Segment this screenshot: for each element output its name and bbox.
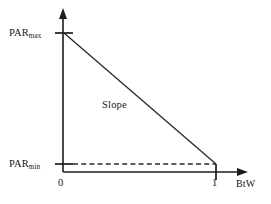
x-axis-title: BtW xyxy=(236,179,256,189)
par-min-base-text: PAR xyxy=(9,158,29,169)
x-axis-tick-label-one: 1 xyxy=(212,178,217,189)
slope-series-line xyxy=(64,33,216,164)
par-max-subscript-text: max xyxy=(29,32,42,40)
figure-container: PARmax PARmin 0 1 BtW Slope xyxy=(0,0,271,204)
par-min-subscript-text: min xyxy=(29,163,40,171)
slope-annotation-label: Slope xyxy=(102,100,127,111)
y-axis-label-par-min: PARmin xyxy=(9,159,40,170)
x-axis-arrow-icon xyxy=(237,168,248,176)
y-axis-label-par-max: PARmax xyxy=(9,28,41,39)
par-max-base-text: PAR xyxy=(9,27,29,38)
x-axis-tick-label-zero: 0 xyxy=(58,178,63,189)
y-axis-arrow-icon xyxy=(59,8,67,19)
